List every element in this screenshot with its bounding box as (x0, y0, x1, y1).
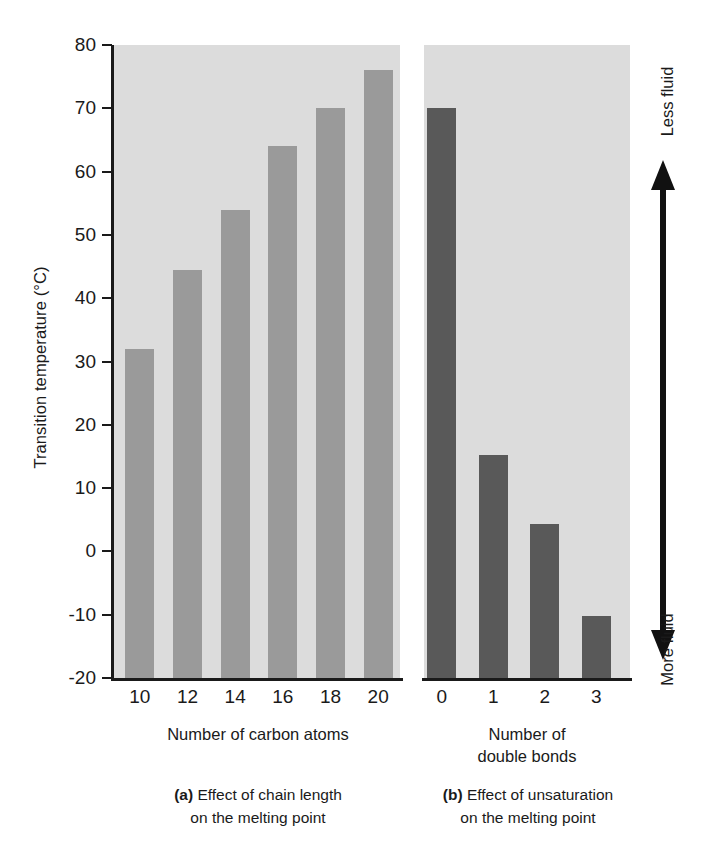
bar (125, 349, 154, 678)
y-tick-label: 30 (0, 352, 96, 371)
bar (173, 270, 202, 678)
y-tick-mark (102, 297, 112, 299)
figure-root: Transition temperature (°C) 807060504030… (0, 0, 703, 843)
bars-panel-a (114, 45, 400, 678)
y-tick-label: -20 (0, 668, 96, 687)
y-tick-label: 40 (0, 288, 96, 307)
x-axis-title-panel-b: Number of double bonds (420, 723, 634, 767)
caption-panel-b-line1: Effect of unsaturation (463, 786, 614, 803)
x-tick-label: 18 (307, 686, 355, 708)
y-tick-mark (102, 614, 112, 616)
x-axis-line-panel-a (111, 678, 403, 681)
caption-panel-b-label: (b) (443, 786, 463, 803)
x-tick-label: 14 (211, 686, 259, 708)
y-tick-mark (102, 361, 112, 363)
bars-panel-b (424, 45, 630, 678)
plot-area-panel-a (114, 45, 400, 678)
x-axis-title-panel-a: Number of carbon atoms (100, 723, 416, 745)
y-tick-label: 0 (0, 541, 96, 560)
y-tick-mark (102, 171, 112, 173)
x-tick-label: 0 (416, 686, 468, 708)
bar (221, 210, 250, 678)
x-axis-line-panel-b (422, 678, 632, 681)
y-tick-label: 10 (0, 478, 96, 497)
bar (479, 455, 508, 678)
bar (364, 70, 393, 678)
more-fluid-label: More fluid (658, 590, 677, 710)
double-headed-vertical-arrow-icon (643, 160, 683, 660)
bar (582, 616, 611, 678)
caption-panel-a-label: (a) (174, 786, 193, 803)
x-tick-label: 1 (468, 686, 520, 708)
y-axis-line (111, 45, 114, 681)
y-tick-label: 60 (0, 162, 96, 181)
bar (427, 108, 456, 678)
fluidity-scale: Less fluid More fluid (637, 40, 703, 730)
bar (530, 524, 559, 678)
x-tick-label: 10 (116, 686, 164, 708)
y-tick-mark (102, 44, 112, 46)
x-axis-title-panel-b-line1: Number of (488, 725, 565, 743)
x-tick-label: 12 (164, 686, 212, 708)
y-tick-label: 50 (0, 225, 96, 244)
caption-panel-a-line2: on the melting point (96, 806, 420, 829)
y-tick-label: -10 (0, 605, 96, 624)
y-tick-label: 80 (0, 35, 96, 54)
caption-panel-a: (a) Effect of chain length on the meltin… (96, 783, 420, 829)
plot-area-panel-b (424, 45, 630, 678)
y-tick-label: 20 (0, 415, 96, 434)
less-fluid-label: Less fluid (658, 42, 677, 162)
y-tick-mark (102, 107, 112, 109)
x-tick-label: 3 (571, 686, 623, 708)
caption-panel-a-line1: Effect of chain length (193, 786, 342, 803)
bar (268, 146, 297, 678)
y-tick-mark (102, 677, 112, 679)
bar (316, 108, 345, 678)
x-axis-title-panel-b-line2: double bonds (420, 745, 634, 767)
y-tick-label: 70 (0, 98, 96, 117)
y-tick-mark (102, 487, 112, 489)
caption-panel-b: (b) Effect of unsaturation on the meltin… (414, 783, 642, 829)
x-tick-label: 20 (354, 686, 402, 708)
y-tick-mark (102, 550, 112, 552)
caption-panel-b-line2: on the melting point (414, 806, 642, 829)
y-tick-mark (102, 424, 112, 426)
y-tick-mark (102, 234, 112, 236)
x-tick-label: 16 (259, 686, 307, 708)
x-tick-label: 2 (519, 686, 571, 708)
